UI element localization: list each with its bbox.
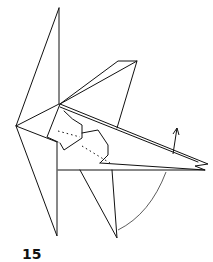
lower-flap (80, 170, 117, 238)
left-lower-wing (16, 126, 57, 236)
swing-arc (118, 172, 166, 230)
step-number: 15 (22, 247, 41, 261)
top-flap (60, 61, 137, 104)
fold-up-arrow-icon (173, 128, 179, 154)
long-right-flap (58, 104, 208, 170)
left-upper-wing (16, 8, 59, 126)
